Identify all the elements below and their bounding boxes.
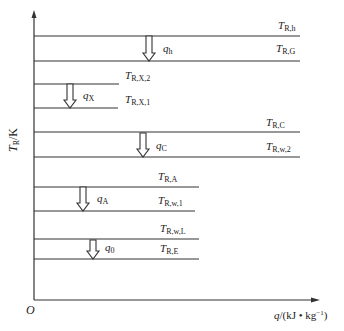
- label-q-a: qA: [97, 193, 108, 206]
- axes: [34, 16, 312, 300]
- label-t-r-x-2: TR,X,2: [125, 70, 150, 83]
- label-t-r-w-2: TR,w,2: [266, 141, 291, 154]
- label-t-r-w-1: TR,w,1: [158, 195, 183, 208]
- label-q-0: q0: [105, 242, 115, 255]
- label-t-r-e: TR,E: [160, 243, 178, 256]
- label-q-x: qX: [83, 90, 94, 103]
- arrow-qa-icon: [77, 187, 89, 211]
- arrow-q0-icon: [87, 240, 99, 259]
- label-q-c: qC: [156, 140, 167, 153]
- label-t-r-c: TR,C: [266, 117, 285, 130]
- label-t-r-g: TR,G: [276, 43, 295, 56]
- y-axis-arrowhead-icon: [32, 10, 37, 18]
- arrow-qx-icon: [64, 84, 76, 108]
- label-q-h: qh: [163, 43, 173, 56]
- label-t-r-x-1: TR,X,1: [125, 94, 150, 107]
- x-axis-arrowhead-icon: [311, 298, 320, 303]
- x-axis-label: q/(kJ • kg−1): [274, 309, 327, 321]
- label-t-r-a: TR,A: [158, 171, 177, 184]
- label-t-r-w-l: TR,w,L: [160, 223, 186, 236]
- arrow-qc-icon: [137, 133, 149, 157]
- arrow-qh-icon: [143, 36, 155, 61]
- y-axis-label: TR/K: [6, 128, 21, 152]
- label-t-r-h: TR,h: [278, 20, 295, 33]
- origin-label: O: [26, 303, 35, 318]
